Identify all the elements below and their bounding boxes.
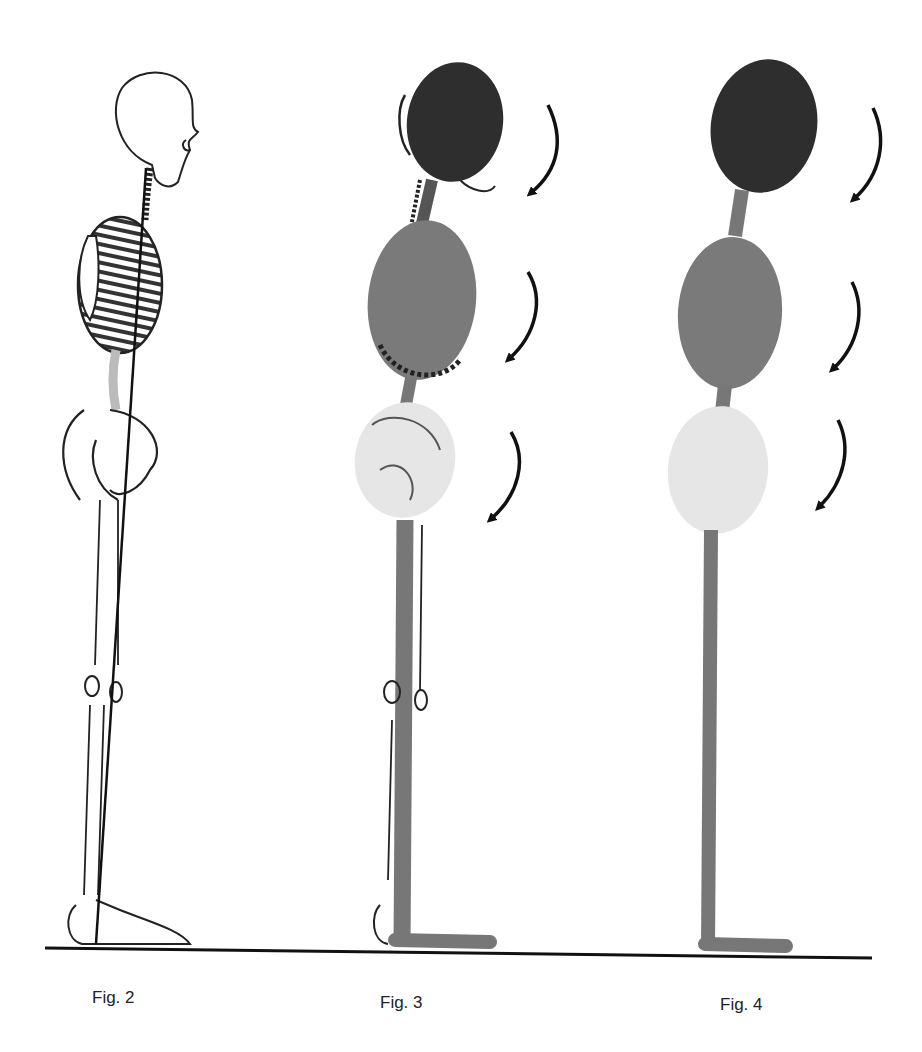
posture-diagram <box>0 0 922 1052</box>
curved-arrow-icon <box>820 420 845 506</box>
curved-arrow-icon <box>855 108 881 198</box>
head-oval <box>700 51 828 201</box>
curved-arrow-icon <box>532 105 557 192</box>
head-oval <box>399 56 511 188</box>
thorax-oval <box>673 234 787 393</box>
foot-bar <box>395 940 490 942</box>
curved-arrow-icon <box>834 282 859 368</box>
thorax-oval <box>360 215 484 385</box>
figure-4-model <box>662 51 828 948</box>
leg-bar <box>708 530 711 948</box>
foot <box>68 900 190 944</box>
pelvis-oval <box>346 394 465 526</box>
pelvis <box>63 410 157 500</box>
figure-2-skeleton <box>63 73 198 944</box>
figure-4-caption: Fig. 4 <box>720 995 763 1015</box>
skull <box>116 73 198 187</box>
figure-3-caption: Fig. 3 <box>380 993 423 1013</box>
figure-3-overlay <box>346 56 511 945</box>
foot-bar <box>705 944 786 946</box>
leg-bar <box>402 520 405 945</box>
figure-2-caption: Fig. 2 <box>92 988 135 1008</box>
curved-arrow-icon <box>510 272 536 358</box>
curved-arrow-icon <box>492 432 519 518</box>
pelvis-oval <box>662 401 775 539</box>
